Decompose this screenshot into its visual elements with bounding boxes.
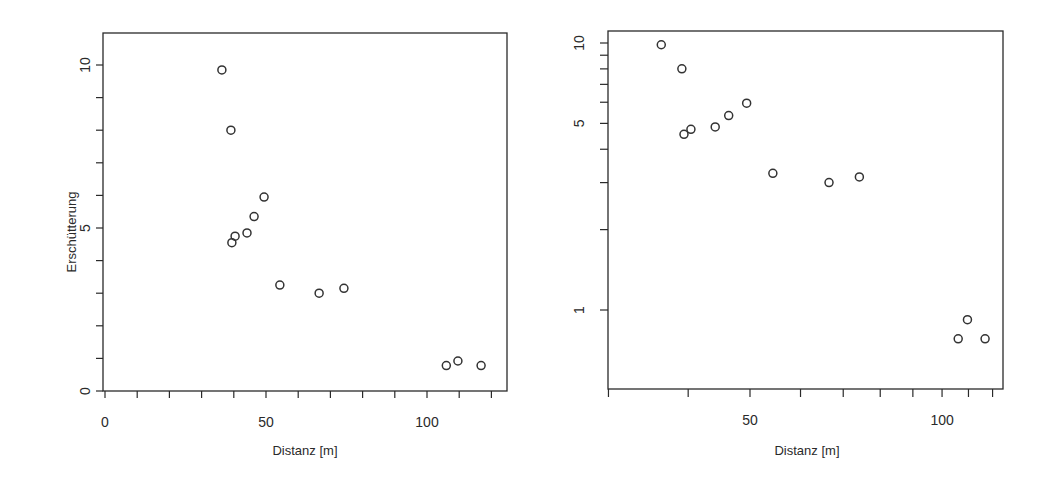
x-tick-label: 0 — [101, 414, 109, 430]
data-point — [743, 99, 751, 107]
data-point — [678, 65, 686, 73]
left-x-axis-ticks: 050100 — [101, 391, 491, 430]
data-point — [340, 284, 348, 292]
left-scatter-plot: 050100 0510 Distanz [m] Erschütterung — [64, 33, 507, 458]
y-tick-label: 10 — [77, 57, 93, 73]
data-point — [260, 193, 268, 201]
left-x-axis-label: Distanz [m] — [272, 443, 337, 458]
data-point — [315, 289, 323, 297]
data-point — [680, 130, 688, 138]
data-point — [243, 229, 251, 237]
right-plot-frame — [608, 31, 1003, 389]
y-tick-label: 1 — [571, 306, 587, 314]
x-tick-label: 100 — [415, 414, 439, 430]
left-plot-frame — [103, 33, 507, 391]
data-point — [228, 239, 236, 247]
data-point — [250, 213, 258, 221]
left-y-axis-label: Erschütterung — [64, 192, 79, 273]
y-tick-label: 0 — [77, 387, 93, 395]
data-point — [981, 335, 989, 343]
right-data-points — [657, 41, 989, 343]
right-scatter-plot: 50100 1510 Distanz [m] — [571, 31, 1003, 458]
data-point — [963, 316, 971, 324]
x-tick-label: 50 — [742, 412, 758, 428]
data-point — [276, 281, 284, 289]
data-point — [711, 123, 719, 131]
data-point — [218, 66, 226, 74]
figure: 050100 0510 Distanz [m] Erschütterung 50… — [0, 0, 1038, 491]
data-point — [454, 357, 462, 365]
data-point — [227, 126, 235, 134]
left-data-points — [218, 66, 485, 370]
right-x-axis-label: Distanz [m] — [774, 443, 839, 458]
right-y-axis-ticks: 1510 — [571, 35, 608, 314]
left-y-axis-ticks: 0510 — [77, 57, 103, 395]
data-point — [725, 112, 733, 120]
y-tick-label: 10 — [571, 35, 587, 51]
y-tick-label: 5 — [571, 119, 587, 127]
data-point — [825, 179, 833, 187]
right-x-axis-ticks: 50100 — [608, 389, 992, 428]
data-point — [954, 335, 962, 343]
data-point — [442, 362, 450, 370]
x-tick-label: 50 — [258, 414, 274, 430]
x-tick-label: 100 — [930, 412, 954, 428]
data-point — [855, 173, 863, 181]
data-point — [769, 169, 777, 177]
data-point — [477, 362, 485, 370]
data-point — [657, 41, 665, 49]
figure-canvas: 050100 0510 Distanz [m] Erschütterung 50… — [0, 0, 1038, 491]
y-tick-label: 5 — [77, 224, 93, 232]
